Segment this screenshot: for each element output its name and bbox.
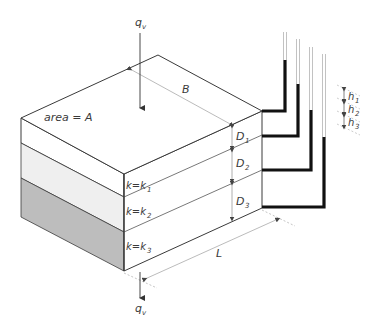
svg-text:2: 2: [245, 164, 250, 172]
svg-text:v: v: [142, 309, 147, 317]
layer1-label: k=k: [126, 180, 147, 191]
svg-text:1: 1: [245, 137, 249, 145]
flow-bottom-label: q: [135, 302, 142, 315]
h3-label: h: [348, 117, 354, 128]
piezometer-1: [262, 32, 287, 111]
head-dimensions: h 1 h 2 h 3: [337, 85, 360, 135]
h2-label: h: [348, 104, 354, 115]
layer2-label: k=k: [126, 206, 147, 217]
svg-text:3: 3: [355, 123, 359, 131]
piezometers: [262, 32, 326, 207]
svg-text:3: 3: [245, 202, 249, 210]
h1-label: h: [348, 91, 354, 102]
layer3-label: k=k: [126, 241, 147, 252]
svg-text:1: 1: [355, 97, 359, 105]
piezometer-2: [262, 39, 300, 136]
flow-top-label: q: [135, 16, 142, 29]
d3-label: D: [236, 195, 244, 208]
svg-text:3: 3: [147, 247, 151, 255]
area-label: area = A: [44, 111, 93, 124]
svg-text:2: 2: [147, 212, 152, 220]
svg-text:2: 2: [355, 110, 360, 118]
svg-text:1: 1: [147, 186, 151, 194]
svg-text:v: v: [142, 23, 147, 31]
width-label: B: [182, 83, 190, 96]
length-label: L: [216, 247, 222, 260]
soil-layer-diagram: B q v area = A k=k 1 k=k 2 k=k 3 D 1 D 2…: [0, 0, 378, 324]
piezometer-3: [262, 47, 313, 170]
piezometer-4: [262, 54, 326, 207]
d1-label: D: [236, 130, 244, 143]
d2-label: D: [236, 157, 244, 170]
